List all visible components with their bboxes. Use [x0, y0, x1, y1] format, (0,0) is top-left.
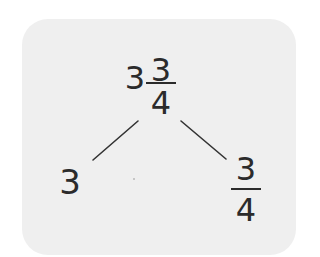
right-denominator: 4	[233, 194, 259, 226]
root-whole-number: 3	[124, 62, 146, 94]
right-fraction-bar	[231, 188, 261, 190]
right-bond-line	[181, 121, 226, 159]
right-numerator: 3	[233, 153, 259, 185]
left-part-whole-number: 3	[58, 165, 82, 199]
speck	[133, 178, 135, 180]
left-bond-line	[93, 121, 138, 160]
root-denominator: 4	[148, 87, 174, 119]
